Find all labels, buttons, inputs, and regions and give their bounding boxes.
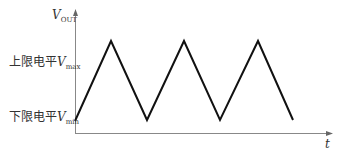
y-axis-label: VOUT (52, 9, 77, 24)
x-axis (75, 131, 333, 136)
triangle-waveform (75, 41, 293, 121)
x-axis-arrow-icon (326, 131, 333, 136)
lower-level-label: 下限电平Vmin (9, 108, 79, 126)
triangle-wave-diagram: VOUT 上限电平Vmax 下限电平Vmin t (0, 0, 341, 157)
upper-level-label: 上限电平Vmax (9, 53, 80, 71)
x-axis-label: t (325, 138, 330, 150)
